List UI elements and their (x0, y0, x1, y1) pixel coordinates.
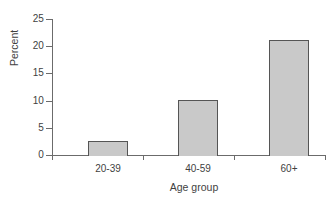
x-axis-tick-label-20-39: 20-39 (95, 163, 121, 174)
x-axis-tick-start (52, 155, 53, 160)
bar-40-59 (178, 100, 218, 157)
y-axis-tick-25 (46, 19, 52, 20)
y-axis-tick-10 (46, 101, 52, 102)
x-axis-title: Age group (0, 181, 336, 193)
x-axis-tick-1 (143, 155, 144, 160)
x-axis-tick-label-40-59: 40-59 (185, 163, 211, 174)
y-axis-tick-label-0: 0 (38, 150, 44, 160)
x-axis-tick-end (325, 155, 326, 160)
bar-20-39 (88, 141, 128, 156)
y-axis-tick-label-20: 20 (33, 41, 44, 51)
plot-area: 0 5 10 15 20 25 20-39 40-59 60+ Age grou… (0, 0, 336, 205)
y-axis-tick-label-25: 25 (33, 14, 44, 24)
bar-chart-figure: 0 5 10 15 20 25 20-39 40-59 60+ Age grou… (0, 0, 336, 205)
x-axis-tick-label-60-plus: 60+ (281, 163, 298, 174)
y-axis-line (52, 19, 53, 156)
x-axis-tick-2 (234, 155, 235, 160)
y-axis-tick-5 (46, 128, 52, 129)
y-axis-tick-label-15: 15 (33, 68, 44, 78)
y-axis-tick-label-5: 5 (38, 123, 44, 133)
y-axis-tick-15 (46, 73, 52, 74)
y-axis-tick-label-10: 10 (33, 96, 44, 106)
bar-60-plus (269, 40, 309, 156)
y-axis-tick-20 (46, 46, 52, 47)
y-axis-title: Percent (8, 52, 20, 66)
